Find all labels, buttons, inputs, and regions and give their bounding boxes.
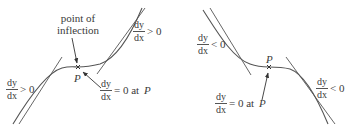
fraction-numerator: dy [215,92,227,104]
point-reference: P [259,98,266,109]
fraction-numerator: dy [316,77,328,89]
derivative-fraction: dy dx [215,92,227,115]
point-P-label: P [266,53,273,65]
gradient-left-label: dy dx > 0 [6,78,34,101]
inflection-label-line2: inflection [48,24,108,36]
inflection-arrow [72,38,77,63]
fraction-denominator: dx [101,91,111,102]
inflection-label: point of inflection [48,12,108,36]
inflection-label-line1: point of [48,12,108,24]
gradient-right-label: dy dx < 0 [316,77,344,100]
fraction-numerator: dy [133,20,145,32]
derivative-fraction: dy dx [197,33,209,56]
fraction-denominator: dx [198,45,208,56]
derivative-fraction: dy dx [100,79,112,102]
fraction-numerator: dy [100,79,112,91]
relation-text: = 0 at [229,98,254,109]
gradient-left-label: dy dx < 0 [197,33,225,56]
fraction-denominator: dx [134,32,144,43]
relation-text: < 0 [211,39,225,50]
gradient-at-P-label: dy dx = 0 at P [100,79,151,102]
relation-text: < 0 [330,83,344,94]
gradient-right-label: dy dx > 0 [133,20,161,43]
zero-gradient-arrow [83,72,101,88]
point-P-label: P [74,72,81,84]
point-reference: P [144,85,151,96]
gradient-at-P-label: dy dx = 0 at P [215,92,266,115]
fraction-numerator: dy [6,78,18,90]
fraction-numerator: dy [197,33,209,45]
derivative-fraction: dy dx [133,20,145,43]
fraction-denominator: dx [317,89,327,100]
relation-text: = 0 at [114,85,139,96]
fraction-denominator: dx [7,90,17,101]
fraction-denominator: dx [216,104,226,115]
derivative-fraction: dy dx [6,78,18,101]
relation-text: > 0 [147,26,161,37]
derivative-fraction: dy dx [316,77,328,100]
relation-text: > 0 [20,84,34,95]
